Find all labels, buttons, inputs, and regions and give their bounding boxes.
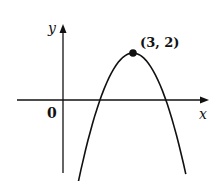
- y-axis-arrow-icon: [60, 24, 67, 33]
- parabola-graph: (3, 2) y x 0: [0, 0, 218, 181]
- parabola-curve: [46, 53, 186, 181]
- vertex-label: (3, 2): [140, 35, 179, 50]
- vertex-point: [129, 49, 137, 57]
- x-axis-label: x: [199, 106, 207, 122]
- origin-label: 0: [47, 105, 57, 121]
- y-axis-label: y: [47, 20, 57, 36]
- x-axis-arrow-icon: [200, 97, 209, 104]
